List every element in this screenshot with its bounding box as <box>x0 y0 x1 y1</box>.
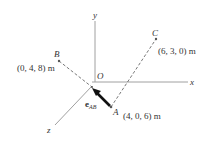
origin-point <box>91 86 93 88</box>
z-axis-label: z <box>47 126 51 135</box>
point-a-coords: (4, 0, 6) m <box>123 112 161 121</box>
dashed-line-a-c <box>111 39 156 107</box>
point-c-label: C <box>152 29 158 38</box>
3d-coordinate-diagram: y x z O B (0, 4, 8) m C (6, 3, 0) m A (4… <box>0 0 211 145</box>
point-c <box>155 38 157 40</box>
origin-label: O <box>97 72 104 81</box>
point-a-label: A <box>113 108 119 117</box>
point-b-coords: (0, 4, 8) m <box>17 64 55 73</box>
point-a <box>110 106 113 109</box>
x-axis-label: x <box>190 78 194 87</box>
y-axis-label: y <box>93 11 97 20</box>
unit-vector-arrow-shaft <box>97 93 110 106</box>
unit-vector-label: eAB <box>85 100 96 110</box>
point-b-label: B <box>54 50 60 59</box>
dashed-line-b-o <box>59 61 92 87</box>
point-c-coords: (6, 3, 0) m <box>158 47 196 56</box>
point-b <box>58 60 60 62</box>
unit-vector-subscript: AB <box>89 104 96 110</box>
